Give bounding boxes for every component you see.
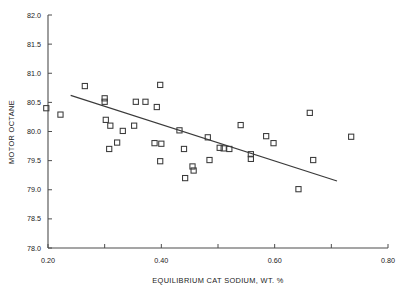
data-point-marker [207,157,212,162]
x-tick-label: 0.80 [381,256,395,265]
y-tick-label: 81.0 [27,69,41,78]
regression-line [71,95,337,181]
data-point-marker [102,96,107,101]
y-tick-label: 78.0 [27,244,41,253]
data-point-marker [311,157,316,162]
data-point-marker [158,82,163,87]
data-point-marker [133,99,138,104]
data-point-marker [349,134,354,139]
y-tick-label: 82.0 [27,11,41,20]
x-axis-title: EQUILIBRIUM CAT SODIUM, WT. % [152,276,283,285]
data-point-marker [103,117,108,122]
x-tick-label: 0.60 [268,256,282,265]
data-point-marker [181,146,186,151]
x-tick-labels: 0.200.400.600.80 [41,256,395,265]
y-tick-labels: 78.078.579.079.580.080.581.081.582.0 [27,11,41,253]
y-tick-label: 78.5 [27,214,41,223]
data-point-marker [108,123,113,128]
y-tick-label: 80.5 [27,98,41,107]
data-point-marker [102,99,107,104]
scatter-plot-figure: 78.078.579.079.580.080.581.081.582.0 0.2… [0,0,406,293]
y-tick-label: 79.5 [27,156,41,165]
data-point-marker [154,104,159,109]
data-point-marker [183,176,188,181]
data-point-marker [152,141,157,146]
data-point-marker [271,141,276,146]
data-point-marker [296,187,301,192]
y-tick-label: 81.5 [27,40,41,49]
y-axis-title: MOTOR OCTANE [7,100,16,164]
chart-canvas: 78.078.579.079.580.080.581.081.582.0 0.2… [0,0,406,293]
y-tick-label: 79.0 [27,185,41,194]
data-point-marker [120,128,125,133]
data-point-marker [143,99,148,104]
data-point-marker [159,141,164,146]
data-point-marker [307,110,312,115]
x-tick-marks [48,244,388,248]
y-tick-label: 80.0 [27,127,41,136]
data-point-marker [82,83,87,88]
data-point-marker [238,122,243,127]
data-point-marker [132,123,137,128]
data-point-marker [107,146,112,151]
data-point-marker [58,112,63,117]
x-tick-label: 0.20 [41,256,55,265]
axes [48,15,388,248]
data-point-marker [158,159,163,164]
data-point-marker [115,140,120,145]
data-point-marker [264,134,269,139]
y-tick-marks [48,15,52,248]
regression-trend-line [71,95,337,181]
x-tick-label: 0.40 [154,256,168,265]
